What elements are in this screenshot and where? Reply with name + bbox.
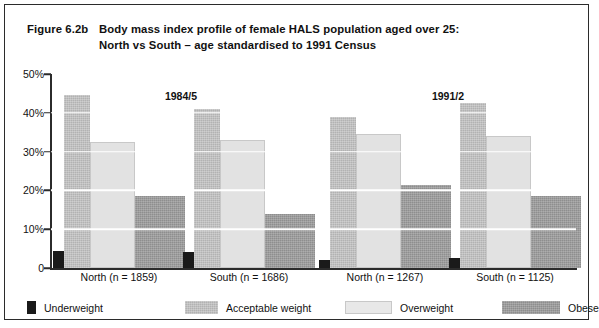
bar-groups (51, 74, 576, 268)
bar-acceptable (460, 103, 486, 268)
bar-overweight (220, 140, 265, 268)
x-axis-group-label: North (n = 1267) (347, 271, 424, 283)
x-axis-group-label: South (n = 1125) (476, 271, 554, 283)
figure-number: Figure 6.2b (27, 21, 99, 37)
y-tick-label: 50% (23, 68, 44, 80)
legend-item-obese[interactable]: Obese (502, 301, 599, 314)
bar-group (183, 74, 315, 268)
bar-overweight (356, 134, 401, 268)
figure-title-block: Figure 6.2b Body mass index profile of f… (27, 21, 567, 53)
figure-title-line-1: Body mass index profile of female HALS p… (99, 21, 567, 37)
y-tick-label: 40% (23, 107, 44, 119)
legend-swatch-overweight-icon (345, 301, 392, 314)
legend-label: Underweight (44, 302, 103, 314)
legend-swatch-acceptable-icon (185, 301, 218, 314)
chart-legend: UnderweightAcceptable weightOverweightOb… (27, 301, 572, 317)
y-tick-mark (44, 73, 51, 75)
legend-swatch-obese-icon (502, 301, 560, 314)
y-tick-mark (44, 151, 51, 153)
bar-obese (265, 214, 315, 268)
x-axis-group-label: South (n = 1686) (210, 271, 289, 283)
bar-acceptable (330, 117, 356, 268)
bar-group (449, 74, 581, 268)
period-label: 1991/2 (432, 90, 464, 102)
legend-swatch-underweight-icon (27, 301, 36, 314)
y-tick-mark (44, 267, 51, 269)
legend-item-acceptable[interactable]: Acceptable weight (185, 301, 311, 314)
figure-frame: Figure 6.2b Body mass index profile of f… (4, 4, 589, 320)
legend-item-overweight[interactable]: Overweight (345, 301, 453, 314)
legend-item-underweight[interactable]: Underweight (27, 301, 103, 314)
legend-label: Obese (568, 302, 599, 314)
plot-area: 010%20%30%40%50% (51, 74, 576, 268)
figure-title-line-2: North vs South – age standardised to 199… (99, 37, 567, 53)
bar-underweight (53, 251, 64, 268)
y-tick-mark (44, 228, 51, 230)
x-axis-line (50, 268, 577, 270)
period-label: 1984/5 (165, 90, 197, 102)
y-tick-label: 20% (23, 184, 44, 196)
bar-overweight (90, 142, 135, 268)
bar-underweight (183, 252, 194, 268)
bar-group (319, 74, 451, 268)
bar-obese (401, 185, 451, 268)
y-tick-label: 30% (23, 146, 44, 158)
bar-overweight (486, 136, 531, 268)
x-axis-group-label: North (n = 1859) (81, 271, 158, 283)
legend-label: Acceptable weight (226, 302, 311, 314)
y-tick-mark (44, 112, 51, 114)
y-tick-label: 10% (23, 223, 44, 235)
bar-group (53, 74, 185, 268)
y-tick-mark (44, 190, 51, 192)
bar-underweight (319, 260, 330, 268)
legend-label: Overweight (400, 302, 453, 314)
bar-acceptable (64, 95, 90, 268)
bar-obese (135, 196, 185, 268)
bar-acceptable (194, 109, 220, 268)
bar-obese (531, 196, 581, 268)
bar-underweight (449, 258, 460, 268)
